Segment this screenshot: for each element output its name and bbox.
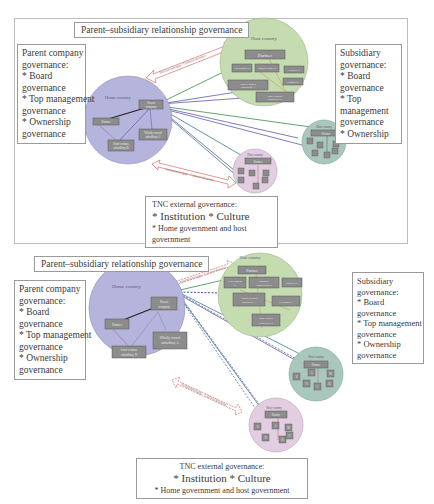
svg-text:Customer C: Customer C — [287, 81, 300, 84]
svg-text:M: M — [329, 372, 332, 376]
svg-text:Home country: Home country — [112, 284, 141, 289]
svg-text:subsidiary B: subsidiary B — [268, 98, 282, 101]
svg-text:company: company — [146, 105, 157, 109]
svg-text:company: company — [158, 305, 170, 309]
svg-text:C: C — [316, 385, 318, 389]
svg-text:Partner: Partner — [272, 413, 281, 417]
svg-text:M: M — [287, 426, 290, 430]
svg-text:Wholly owned: Wholly owned — [241, 297, 258, 300]
subsidiary-governance-box: Subsidiary governance: * Board governanc… — [352, 272, 424, 364]
svg-text:Joint-venture: Joint-venture — [121, 348, 138, 352]
home-country-circle: Home country Parent company Partner Whol… — [89, 260, 187, 358]
diagram-top: Institutional gap / Cultural distance In… — [0, 0, 434, 250]
svg-text:Partner: Partner — [312, 363, 321, 367]
svg-text:subsidiary A: subsidiary A — [241, 86, 255, 89]
svg-text:Host country: Host country — [251, 36, 277, 41]
svg-text:Joint-venture: Joint-venture — [259, 317, 275, 320]
svg-text:subsidiary A: subsidiary A — [242, 301, 256, 304]
svg-text:subsidiary B: subsidiary B — [259, 322, 273, 325]
svg-text:Industry assoc. B: Industry assoc. B — [258, 67, 276, 70]
svg-text:Partner: Partner — [246, 268, 258, 273]
host-country-small-circle-1: Host country Partner S A M B C N — [289, 347, 343, 401]
svg-text:subsidiary A: subsidiary A — [145, 135, 161, 139]
tnc-external-governance-box: TNC external governance: * Institution *… — [145, 196, 278, 248]
svg-text:Host country: Host country — [308, 355, 324, 359]
host-country-main-circle: Host country Partner Government B Indust… — [218, 253, 302, 337]
svg-text:Partner: Partner — [258, 53, 273, 58]
svg-text:B: B — [281, 438, 283, 442]
title-parent-subsidiary-governance: Parent–subsidiary relationship governanc… — [34, 256, 209, 272]
title-parent-subsidiary-governance: Parent–subsidiary relationship governanc… — [74, 22, 249, 38]
svg-text:B: B — [328, 382, 330, 386]
subsidiary-governance-box: Subsidiary governance: * Board governanc… — [335, 44, 402, 144]
diagram-bottom: Institutional gap / Cultural distance In… — [0, 250, 434, 504]
svg-text:Host country: Host country — [266, 406, 282, 410]
svg-text:Supplier C: Supplier C — [288, 69, 299, 72]
svg-text:Supplier C: Supplier C — [286, 282, 298, 285]
institutional-gap-arrow-lower: Institutional gap / Cultural distance — [172, 377, 242, 415]
parent-company-governance-box: Parent company governance: * Board gover… — [14, 280, 86, 380]
host-country-small-circle-2: Host country Partner S A M B C N — [249, 398, 303, 452]
svg-text:Partner: Partner — [101, 120, 111, 124]
svg-text:Host country: Host country — [240, 255, 261, 260]
svg-text:Partner: Partner — [112, 323, 123, 327]
svg-text:Industry: Industry — [259, 280, 269, 283]
svg-text:subsidiary B: subsidiary B — [121, 353, 137, 357]
svg-text:Partner: Partner — [254, 160, 263, 164]
svg-text:association B: association B — [257, 284, 272, 287]
svg-text:Parent: Parent — [160, 300, 168, 304]
institutional-gap-arrow-upper: Institutional gap / Cultural distance — [146, 42, 232, 83]
svg-text:C: C — [288, 434, 290, 438]
svg-text:Host country: Host country — [247, 153, 263, 157]
svg-text:B: B — [234, 284, 236, 287]
svg-text:Government B: Government B — [234, 67, 250, 70]
host-country-small-circle-2: Host country Partner — [233, 149, 277, 193]
svg-text:Partner: Partner — [322, 132, 331, 136]
home-country-circle: Home country Parent company Partner Whol… — [84, 76, 172, 164]
tnc-external-governance-box: TNC external governance: * Institution *… — [136, 458, 308, 499]
svg-text:subsidiary B: subsidiary B — [113, 146, 128, 150]
svg-text:Institutional gap / Cultural d: Institutional gap / Cultural distance — [159, 53, 207, 75]
svg-text:Government: Government — [228, 280, 242, 283]
parent-company-governance-box: Parent company governance: * Board gover… — [17, 44, 86, 144]
svg-text:Host country: Host country — [316, 125, 332, 129]
svg-text:subsidiary A: subsidiary A — [161, 341, 179, 345]
svg-text:Home country: Home country — [105, 95, 132, 100]
svg-text:Wholly owned: Wholly owned — [160, 336, 181, 340]
svg-text:Customer C: Customer C — [279, 301, 293, 304]
svg-text:Institutional gap / Cultural d: Institutional gap / Cultural distance — [181, 382, 228, 407]
